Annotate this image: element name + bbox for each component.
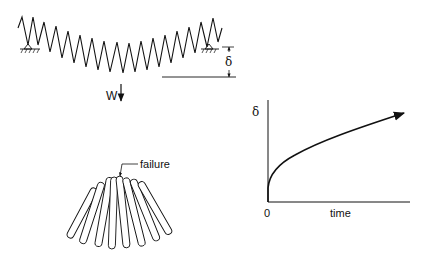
load-label: W: [106, 90, 117, 102]
chart-x-origin-tick: 0: [264, 208, 270, 219]
failure-label: failure: [140, 159, 170, 170]
figure-svg: [0, 0, 425, 270]
figure-canvas: W δ failure δ 0 time: [0, 0, 425, 270]
chart-y-axis-label: δ: [252, 106, 259, 118]
failed-spring-coils: [66, 176, 173, 249]
left-support-icon: [20, 44, 40, 53]
right-support-icon: [201, 44, 219, 53]
deflection-label: δ: [225, 56, 232, 68]
sagging-spring: [18, 17, 222, 73]
chart-x-axis-label: time: [330, 208, 351, 219]
creep-curve: [268, 113, 404, 202]
failure-leader-line: [120, 164, 138, 176]
chart-axes: [268, 100, 410, 202]
